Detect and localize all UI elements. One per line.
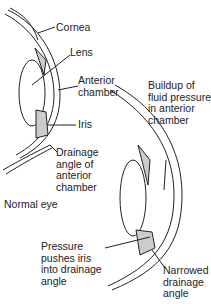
label-narrowed: Narrowed drainage angle: [163, 265, 209, 300]
label-line: angle: [163, 288, 209, 300]
eye-diagram-art: [0, 0, 211, 304]
label-line: Narrowed: [163, 265, 209, 277]
glaucoma-lens: [120, 160, 146, 236]
label-line: into drainage: [41, 264, 102, 276]
glaucoma-iris-lower: [136, 230, 155, 255]
label-anterior-chamber: Anterior chamber: [78, 75, 119, 98]
label-line: Drainage: [56, 147, 99, 159]
label-pressure: Pressure pushes iris into drainage angle: [41, 241, 102, 287]
label-line: anterior: [56, 170, 99, 182]
label-line: Pressure: [41, 241, 102, 253]
label-line: chamber: [78, 87, 119, 99]
label-line: in anterior: [148, 103, 211, 115]
label-iris: Iris: [78, 119, 92, 131]
label-drainage-angle: Drainage angle of anterior chamber: [56, 147, 99, 193]
label-buildup: Buildup of fluid pressure in anterior ch…: [148, 80, 211, 126]
normal-iris-lower: [36, 110, 48, 138]
caption-normal-eye: Normal eye: [4, 199, 58, 211]
label-cornea: Cornea: [56, 22, 90, 34]
label-line: chamber: [56, 182, 99, 194]
label-line: Buildup of: [148, 80, 211, 92]
label-lens: Lens: [70, 47, 93, 59]
label-line: chamber: [148, 115, 211, 127]
label-line: angle: [41, 276, 102, 288]
label-line: Anterior: [78, 75, 119, 87]
